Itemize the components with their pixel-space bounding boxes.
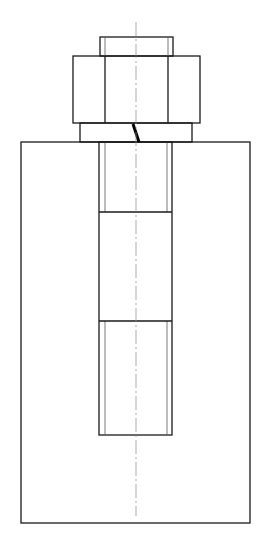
nut-outline (73, 56, 200, 123)
bolt-shank-outline (99, 142, 172, 435)
technical-drawing (0, 0, 275, 548)
block-outline (21, 142, 250, 523)
bolt-end-outline (100, 37, 173, 56)
